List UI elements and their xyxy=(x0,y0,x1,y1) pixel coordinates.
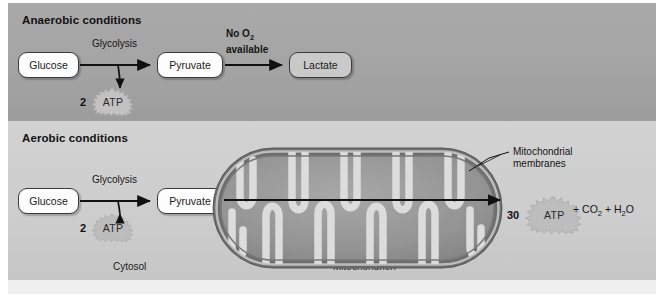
anaerobic-section-title: Anaerobic conditions xyxy=(22,14,142,26)
no-o2-line2: available xyxy=(226,44,268,55)
cytosol-label: Cytosol xyxy=(113,261,146,272)
glycolysis-label-anaerobic: Glycolysis xyxy=(92,38,137,49)
pyruvate-label-aerobic: Pyruvate xyxy=(169,195,210,207)
no-oxygen-label: No O2 available xyxy=(226,28,268,55)
pathway-label: Citric acid cycle/Oxidative phosphorylat… xyxy=(265,201,445,212)
atp-starburst-icon-anaerobic: ATP xyxy=(90,88,136,116)
pyruvate-box-aerobic: Pyruvate xyxy=(157,188,223,214)
glucose-box-anaerobic: Glucose xyxy=(18,52,79,78)
pyruvate-label-anaerobic: Pyruvate xyxy=(169,59,210,71)
no-o2-line1: No O xyxy=(226,28,250,39)
page-bleed-through xyxy=(8,280,656,294)
atp-yield-count: 30 xyxy=(507,209,519,221)
mitochondrial-membranes-callout-label: Mitochondrial membranes xyxy=(513,146,572,170)
pyruvate-box-anaerobic: Pyruvate xyxy=(157,52,223,78)
glucose-box-aerobic: Glucose xyxy=(18,188,79,214)
glucose-label-anaerobic: Glucose xyxy=(29,59,68,71)
atp-starburst-icon-aerobic: ATP xyxy=(90,214,136,242)
aerobic-section-title: Aerobic conditions xyxy=(22,132,128,144)
no-o2-subscript: 2 xyxy=(250,33,254,42)
atp-count-aerobic: 2 xyxy=(80,222,86,234)
atp-yield-label: ATP xyxy=(544,209,565,221)
atp-yield-anaerobic: 2 ATP xyxy=(80,88,136,116)
glycolysis-label-aerobic: Glycolysis xyxy=(92,174,137,185)
atp-label-aerobic: ATP xyxy=(103,222,124,234)
atp-count-anaerobic: 2 xyxy=(80,96,86,108)
membranes-line2: membranes xyxy=(513,158,566,169)
atp-yield-glycolysis-aerobic: 2 ATP xyxy=(80,214,136,242)
cellular-respiration-figure: Anaerobic conditions Glucose Glycolysis … xyxy=(0,0,664,303)
oxygen-available-label: O2 available xyxy=(330,186,387,200)
o2-suffix: available xyxy=(342,186,387,197)
o2-prefix: O xyxy=(330,186,338,197)
atp-label-anaerobic: ATP xyxy=(103,96,124,108)
glucose-label-aerobic: Glucose xyxy=(29,195,68,207)
products-label: + CO2 + H2O xyxy=(573,203,634,218)
lactate-box: Lactate xyxy=(289,52,352,78)
mitochondrion-label: Mitochondrion xyxy=(333,261,396,272)
lactate-label: Lactate xyxy=(303,59,337,71)
membranes-line1: Mitochondrial xyxy=(513,146,572,157)
